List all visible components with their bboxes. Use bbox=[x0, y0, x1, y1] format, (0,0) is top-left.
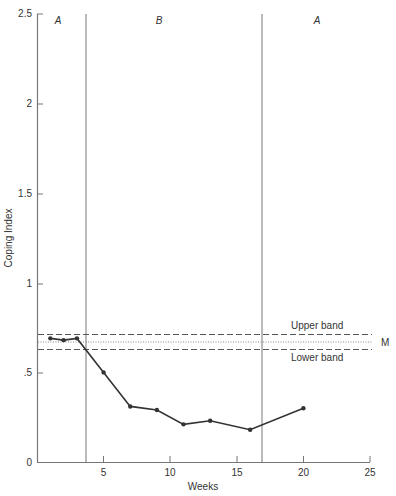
x-tick-label: 20 bbox=[298, 467, 310, 478]
data-point bbox=[208, 419, 212, 423]
series-line bbox=[50, 338, 303, 429]
x-tick-label: 15 bbox=[231, 467, 243, 478]
upper-band-label: Upper band bbox=[291, 320, 343, 331]
data-series bbox=[48, 336, 305, 432]
phase-label-a: A bbox=[313, 15, 321, 26]
y-tick-label: .5 bbox=[24, 367, 33, 378]
phase-label-a: A bbox=[54, 15, 62, 26]
data-point bbox=[181, 422, 185, 426]
y-tick-label: 1 bbox=[26, 278, 32, 289]
chart: 2.5 2 1.5 1 .5 0 5 10 15 20 25 Weeks Cop… bbox=[0, 0, 396, 496]
lower-band-label: Lower band bbox=[291, 352, 343, 363]
mean-label: M bbox=[381, 337, 389, 348]
x-tick-label: 10 bbox=[164, 467, 176, 478]
data-point bbox=[75, 336, 79, 340]
x-axis-title: Weeks bbox=[188, 481, 218, 492]
x-tick-label: 25 bbox=[364, 467, 376, 478]
data-point bbox=[301, 406, 305, 410]
y-tick-label: 1.5 bbox=[18, 188, 32, 199]
phase-label-b: B bbox=[156, 15, 163, 26]
y-tick-label: 0 bbox=[26, 457, 32, 468]
data-point bbox=[155, 408, 159, 412]
x-ticks bbox=[104, 456, 371, 462]
data-point bbox=[248, 428, 252, 432]
data-point bbox=[61, 338, 65, 342]
data-point bbox=[101, 370, 105, 374]
y-tick-label: 2.5 bbox=[18, 8, 32, 19]
y-axis-title: Coping Index bbox=[3, 209, 14, 268]
data-point bbox=[128, 404, 132, 408]
y-tick-label: 2 bbox=[26, 98, 32, 109]
data-point bbox=[48, 336, 52, 340]
x-tick-label: 5 bbox=[101, 467, 107, 478]
